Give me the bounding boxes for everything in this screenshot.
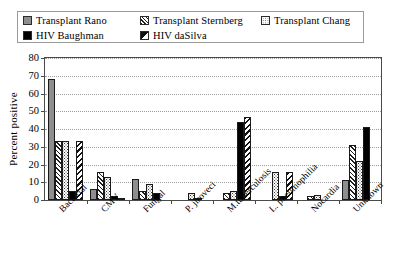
y-axis-tick-label: 10 [29,177,40,188]
bar-group [213,58,255,200]
legend-label-hiv-dasilva: HIV daSilva [153,30,207,41]
legend-label-transplant-sternberg: Transplant Sternberg [153,15,243,26]
legend-row-2: HIV Baughman HIV daSilva [18,28,363,43]
bars-layer [45,58,381,200]
y-axis-tick-label: 30 [29,142,40,153]
legend-label-transplant-chang: Transplant Chang [274,15,350,26]
bar [307,196,314,200]
y-axis-title-text: Percent positive [7,92,19,166]
legend-swatch-transplant-sternberg [140,16,149,25]
legend-label-hiv-baughman: HIV Baughman [36,30,104,41]
bar [48,79,55,200]
legend-swatch-hiv-dasilva [140,31,149,40]
legend-swatch-hiv-baughman [23,31,32,40]
y-axis-tick-label: 20 [29,160,40,171]
x-axis-labels: BacterialCMVFungalP. jiroveciM.tuberculo… [44,201,382,270]
bar-group [339,58,381,200]
bar [90,189,97,200]
bar-group [171,58,213,200]
y-axis-tick-label: 60 [29,89,40,100]
bar [349,145,356,200]
bar [97,172,104,200]
bar-group [129,58,171,200]
bar [139,191,146,200]
legend-item-hiv-baughman: HIV Baughman [23,28,104,43]
y-axis-tick-label: 0 [34,195,39,206]
legend-swatch-transplant-rano [23,16,32,25]
legend-item-transplant-chang: Transplant Chang [261,13,350,28]
bar [223,193,230,200]
legend-swatch-transplant-chang [261,16,270,25]
bar-chart-figure: Transplant Rano Transplant Sternberg Tra… [0,0,394,270]
bar [132,179,139,200]
chart-legend: Transplant Rano Transplant Sternberg Tra… [17,11,364,43]
y-axis-title: Percent positive [6,57,20,201]
y-axis-tick-label: 50 [29,106,40,117]
y-axis-tick-label: 40 [29,124,40,135]
bar-group [45,58,87,200]
bar-group [87,58,129,200]
bar [62,141,69,200]
plot-area: 01020304050607080 [44,57,382,201]
bar [356,161,363,200]
legend-item-hiv-dasilva: HIV daSilva [140,28,207,43]
legend-item-transplant-rano: Transplant Rano [23,13,107,28]
legend-label-transplant-rano: Transplant Rano [36,15,107,26]
bar [342,180,349,200]
legend-item-transplant-sternberg: Transplant Sternberg [140,13,243,28]
legend-row-1: Transplant Rano Transplant Sternberg Tra… [18,13,363,28]
y-axis-tick-label: 70 [29,71,40,82]
bar [55,141,62,200]
y-axis-tick-label: 80 [29,53,40,64]
